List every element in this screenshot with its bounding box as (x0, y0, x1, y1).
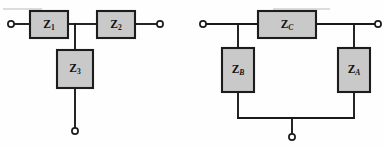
z2-label-subscript: 2 (118, 23, 122, 32)
zb-label-subscript: B (238, 68, 244, 77)
component-z2[interactable]: Z2 (97, 11, 135, 38)
z1-label-subscript: 1 (51, 23, 55, 32)
t-left-terminal[interactable] (8, 21, 14, 27)
za-label-subscript: A (354, 68, 360, 77)
circuit-canvas: Z1Z2Z3ZCZBZA (0, 0, 385, 147)
t-bottom-terminal[interactable] (72, 128, 78, 134)
component-z1[interactable]: Z1 (30, 11, 68, 38)
component-zb[interactable]: ZB (222, 48, 254, 92)
pi-left-terminal[interactable] (200, 21, 206, 27)
z3-label-subscript: 3 (77, 67, 81, 76)
pi-bottom-terminal[interactable] (289, 134, 295, 140)
component-z3[interactable]: Z3 (57, 50, 93, 88)
circuit-diagram: Z1Z2Z3ZCZBZA (0, 0, 385, 147)
component-za[interactable]: ZA (338, 48, 370, 92)
pi-right-terminal[interactable] (375, 21, 381, 27)
network-pi-network: ZCZBZA (200, 11, 381, 140)
network-layer: Z1Z2Z3ZCZBZA (8, 11, 381, 140)
t-right-terminal[interactable] (157, 21, 163, 27)
component-zc[interactable]: ZC (258, 11, 316, 38)
network-t-network: Z1Z2Z3 (8, 11, 163, 134)
